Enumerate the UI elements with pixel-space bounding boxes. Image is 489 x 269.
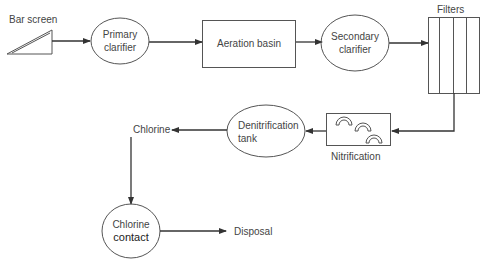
denitrification-line1: Denitrification [238,119,299,132]
disposal-label: Disposal [234,225,272,238]
bar-screen-shape [7,30,52,54]
primary-clarifier-line1: Primary [91,28,149,41]
chlorine-contact-line1: Chlorine [102,218,160,231]
secondary-clarifier-label: Secondary clarifier [321,30,389,56]
primary-clarifier-line2: clarifier [91,41,149,54]
denitrification-line2: tank [238,132,299,145]
filters-shape [429,18,480,94]
arrow-filters-nitrification [392,93,454,131]
primary-clarifier-label: Primary clarifier [91,28,149,54]
chlorine-contact-label: Chlorine contact [102,218,160,244]
secondary-clarifier-line1: Secondary [321,30,389,43]
denitrification-tank-label: Denitrification tank [238,119,299,145]
chlorine-contact-line2: contact [102,231,160,244]
aeration-basin-label: Aeration basin [202,37,296,50]
nitrification-label: Nitrification [331,150,380,163]
chlorine-label: Chlorine [133,123,170,136]
nitrification-shape [327,114,391,146]
bar-screen-label: Bar screen [9,13,57,26]
filters-label: Filters [437,3,464,16]
secondary-clarifier-line2: clarifier [321,43,389,56]
